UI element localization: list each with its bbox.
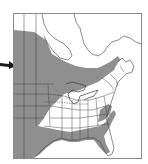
map-graphic [14, 14, 141, 158]
range-map [13, 13, 142, 159]
range-north-band [54, 56, 120, 84]
